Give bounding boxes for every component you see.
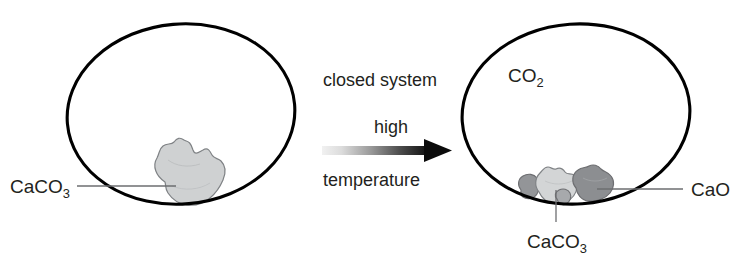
- co2-gas-label: CO2: [508, 65, 544, 90]
- process-group: closed system high temperature: [322, 70, 452, 190]
- caco3-label-left: CaCO3: [10, 176, 70, 201]
- diagram-canvas: CaCO3 closed system high temperature: [0, 0, 751, 262]
- caco3-label-bottom: CaCO3: [527, 231, 587, 256]
- temperature-label: temperature: [323, 170, 420, 190]
- process-arrow-head: [424, 139, 452, 162]
- chemistry-diagram: CaCO3 closed system high temperature: [0, 0, 751, 262]
- caco3-label-bottom-sub: 3: [580, 241, 587, 256]
- caco3-label-left-main: CaCO: [10, 176, 63, 197]
- calcium-oxide-grain-right: [573, 165, 614, 201]
- process-arrow-shaft: [322, 146, 430, 155]
- high-label: high: [374, 117, 408, 137]
- process-arrow: [322, 139, 452, 162]
- co2-gas-label-main: CO: [508, 65, 537, 86]
- cao-label: CaO: [691, 179, 730, 200]
- caco3-label-bottom-main: CaCO: [527, 231, 580, 252]
- co2-gas-label-sub: 2: [537, 75, 544, 90]
- calcium-carbonate-lump: [155, 138, 225, 205]
- product-vessel: CO2 CaO CaCO3: [456, 16, 730, 256]
- reactant-vessel: CaCO3: [10, 14, 302, 213]
- closed-system-label: closed system: [323, 70, 437, 90]
- caco3-label-left-sub: 3: [63, 186, 70, 201]
